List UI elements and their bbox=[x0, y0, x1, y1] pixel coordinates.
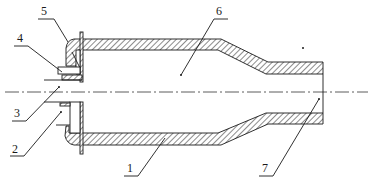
nozzle-upper-insert bbox=[62, 75, 82, 80]
inner-ring-lower bbox=[70, 102, 80, 133]
leader-7 bbox=[259, 99, 319, 176]
label-7: 7 bbox=[262, 161, 268, 175]
label-2: 2 bbox=[12, 142, 18, 156]
label-4: 4 bbox=[17, 31, 23, 45]
label-3: 3 bbox=[14, 106, 20, 120]
label-1: 1 bbox=[127, 161, 133, 175]
leader-4 bbox=[14, 46, 62, 72]
technical-diagram: 5 4 3 2 1 6 7 bbox=[0, 0, 373, 188]
label-5: 5 bbox=[41, 4, 47, 18]
upper-wall bbox=[82, 39, 323, 74]
lower-wall bbox=[82, 113, 323, 145]
label-6: 6 bbox=[216, 4, 222, 18]
nozzle-upper bbox=[58, 67, 80, 74]
leader-5 bbox=[38, 19, 68, 42]
